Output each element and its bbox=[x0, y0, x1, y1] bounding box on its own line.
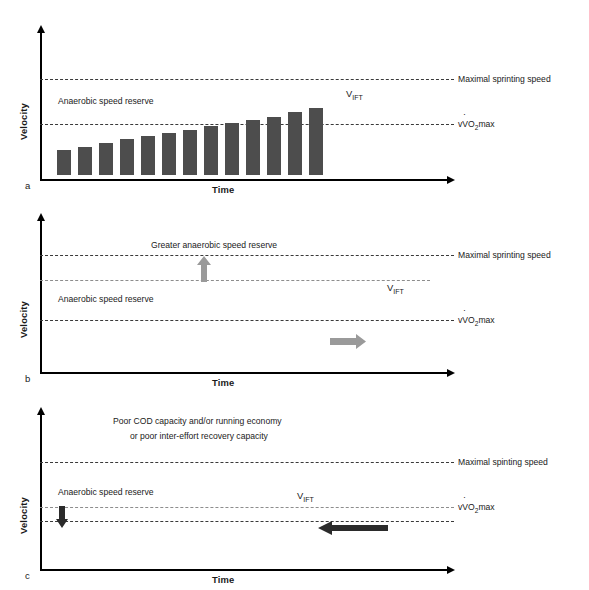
ref-line-maximal-sprinting-speed-a bbox=[40, 79, 454, 80]
y-axis-label-b: Velocity bbox=[18, 301, 29, 338]
panel-letter-a: a bbox=[25, 180, 30, 191]
y-axis-arrowhead-c bbox=[37, 407, 45, 415]
x-axis-line-b bbox=[40, 372, 448, 374]
ref-label-vvo2max-b: vVO2max bbox=[458, 316, 495, 327]
ref-line-maximal-sprinting-speed-b bbox=[40, 255, 454, 256]
y-axis-arrowhead-b bbox=[37, 213, 45, 221]
figure-root: Maximal sprinting speed vVO2max bbox=[0, 0, 589, 590]
x-axis-line-c bbox=[40, 569, 448, 571]
bar-c-10 bbox=[246, 120, 260, 175]
bar-c-7 bbox=[183, 130, 197, 175]
right-shift-arrow-b bbox=[330, 334, 366, 349]
ref-label-maximal-sprinting-speed-b: Maximal sprinting speed bbox=[458, 251, 551, 260]
note-line2-c: or poor inter-effort recovery capacity bbox=[130, 430, 268, 443]
ref-label-maximal-spinting-speed-c: Maximal spinting speed bbox=[458, 458, 548, 467]
x-axis-label-a: Time bbox=[212, 184, 235, 195]
ref-label-maximal-sprinting-speed-a: Maximal sprinting speed bbox=[458, 75, 551, 84]
ref-line-maximal-spinting-speed-c bbox=[40, 462, 454, 463]
y-axis-label-c: Velocity bbox=[18, 497, 29, 534]
bar-c-11 bbox=[267, 117, 281, 175]
vift-label-b: VIFT bbox=[387, 282, 404, 295]
plot-area-b: Maximal sprinting speed vVO2max bbox=[0, 198, 589, 394]
vift-label-a: VIFT bbox=[346, 88, 363, 101]
ref-line-greater-asr-lower-b bbox=[40, 280, 430, 281]
greater-asr-label-b: Greater anaerobic speed reserve bbox=[151, 239, 277, 252]
asr-label-c: Anaerobic speed reserve bbox=[58, 487, 154, 497]
y-axis-line-b bbox=[40, 220, 42, 373]
bar-c-9 bbox=[225, 123, 239, 175]
bar-c-12 bbox=[288, 112, 302, 175]
bar-c-13 bbox=[309, 108, 323, 175]
bar-c-1 bbox=[57, 150, 71, 175]
x-axis-label-c: Time bbox=[212, 574, 235, 585]
panel-letter-b: b bbox=[25, 373, 30, 384]
panel-b: Maximal sprinting speed vVO2max bbox=[0, 198, 589, 394]
y-axis-line-a bbox=[40, 32, 42, 180]
y-axis-line-c bbox=[40, 414, 42, 570]
bar-c-2 bbox=[78, 147, 92, 175]
bar-c-8 bbox=[204, 126, 218, 175]
ref-line-lower-threshold-c bbox=[40, 521, 454, 522]
ref-label-vvo2max-c: vVO2max bbox=[458, 503, 495, 514]
y-axis-label-a: Velocity bbox=[18, 103, 29, 140]
bar-c-3 bbox=[99, 143, 113, 175]
ref-line-vvo2max-c bbox=[40, 507, 454, 508]
x-axis-label-b: Time bbox=[212, 377, 235, 388]
panel-letter-c: c bbox=[25, 570, 30, 581]
ref-label-vvo2max-a: vVO2max bbox=[458, 120, 495, 131]
vift-label-c: VIFT bbox=[297, 490, 314, 503]
x-axis-arrowhead-b bbox=[447, 369, 455, 377]
bar-c-6 bbox=[162, 133, 176, 175]
decrease-down-arrow-c bbox=[55, 506, 69, 528]
panel-c: Maximal spinting speed vVO2max bbox=[0, 394, 589, 590]
leftward-shift-arrow-c bbox=[318, 521, 388, 535]
note-line1-c: Poor COD capacity and/or running economy bbox=[113, 415, 282, 428]
y-axis-arrowhead-a bbox=[37, 25, 45, 33]
x-axis-line-a bbox=[40, 179, 448, 181]
x-axis-arrowhead-c bbox=[447, 566, 455, 574]
plot-area-c: Maximal spinting speed vVO2max bbox=[0, 394, 589, 590]
asr-label-b: Anaerobic speed reserve bbox=[58, 294, 154, 304]
bar-c-4 bbox=[120, 139, 134, 175]
ref-line-vvo2max-b bbox=[40, 320, 454, 321]
asr-label-a: Anaerobic speed reserve bbox=[58, 96, 154, 106]
greater-asr-up-arrow-b bbox=[196, 256, 212, 282]
bar-c-5 bbox=[141, 136, 155, 175]
x-axis-arrowhead-a bbox=[447, 176, 455, 184]
